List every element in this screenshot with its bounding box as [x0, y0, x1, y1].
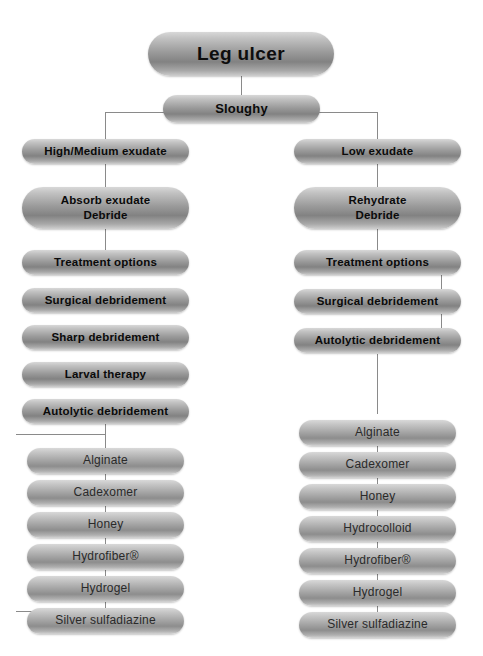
node-low-exudate-label: Low exudate	[342, 145, 414, 158]
node-right-autolytic-debridement-label: Autolytic debridement	[315, 334, 441, 347]
node-leg-ulcer[interactable]: Leg ulcer	[148, 32, 334, 76]
node-right-surgical-debridement[interactable]: Surgical debridement	[294, 289, 461, 314]
connector-sloughy-down-right	[377, 112, 378, 139]
node-left-dressing-alginate-label: Alginate	[83, 454, 128, 468]
node-left-dressing-honey[interactable]: Honey	[27, 512, 184, 538]
node-absorb-exudate-debride[interactable]: Absorb exudate Debride	[22, 187, 189, 229]
node-right-dressing-honey-label: Honey	[360, 490, 396, 504]
node-right-treatment-options-label: Treatment options	[326, 256, 429, 269]
node-left-dressing-honey-label: Honey	[88, 518, 124, 532]
node-left-larval-therapy-label: Larval therapy	[65, 368, 146, 381]
node-right-dressing-honey[interactable]: Honey	[299, 484, 456, 510]
connector-right-exudate-to-aim	[377, 164, 378, 187]
node-right-dressing-alginate-label: Alginate	[355, 426, 400, 440]
node-left-treatment-options-label: Treatment options	[54, 256, 157, 269]
node-right-surgical-debridement-label: Surgical debridement	[317, 295, 439, 308]
node-left-autolytic-debridement[interactable]: Autolytic debridement	[22, 399, 189, 424]
connector-sloughy-spread-right	[311, 112, 377, 113]
node-leg-ulcer-label: Leg ulcer	[197, 43, 285, 65]
node-left-larval-therapy[interactable]: Larval therapy	[22, 362, 189, 387]
node-left-dressing-hydrofiber-label: Hydrofiber®	[72, 550, 138, 564]
connector-sloughy-down-left	[105, 112, 106, 139]
node-right-dressing-cadexomer[interactable]: Cadexomer	[299, 452, 456, 478]
node-left-surgical-debridement[interactable]: Surgical debridement	[22, 288, 189, 313]
node-right-dressing-hydrocolloid[interactable]: Hydrocolloid	[299, 516, 456, 542]
node-left-sharp-debridement-label: Sharp debridement	[51, 331, 159, 344]
node-left-dressing-silver-sulfadiazine[interactable]: Silver sulfadiazine	[27, 608, 184, 634]
node-right-dressing-silver-sulfadiazine[interactable]: Silver sulfadiazine	[299, 612, 456, 638]
node-low-exudate[interactable]: Low exudate	[294, 139, 461, 164]
connector-left-exudate-to-aim	[105, 164, 106, 187]
node-absorb-exudate-line1: Absorb exudate	[61, 194, 151, 207]
node-left-treatment-options[interactable]: Treatment options	[22, 250, 189, 275]
node-left-dressing-hydrogel-label: Hydrogel	[81, 582, 131, 596]
node-left-dressing-alginate[interactable]: Alginate	[27, 448, 184, 474]
node-left-dressing-silver-sulfadiazine-label: Silver sulfadiazine	[55, 614, 156, 628]
node-left-dressing-hydrogel[interactable]: Hydrogel	[27, 576, 184, 602]
node-rehydrate-line1: Rehydrate	[348, 194, 406, 207]
node-left-surgical-debridement-label: Surgical debridement	[45, 294, 167, 307]
node-rehydrate-debride[interactable]: Rehydrate Debride	[294, 187, 461, 229]
node-sloughy[interactable]: Sloughy	[163, 95, 320, 123]
node-rehydrate-line2: Debride	[355, 209, 399, 222]
node-right-dressing-hydrogel-label: Hydrogel	[353, 586, 403, 600]
node-right-autolytic-debridement[interactable]: Autolytic debridement	[294, 328, 461, 353]
node-left-autolytic-debridement-label: Autolytic debridement	[43, 405, 169, 418]
node-right-dressing-cadexomer-label: Cadexomer	[346, 458, 410, 472]
node-right-dressing-hydrofiber[interactable]: Hydrofiber®	[299, 548, 456, 574]
node-right-dressing-hydrogel[interactable]: Hydrogel	[299, 580, 456, 606]
node-absorb-exudate-line2: Debride	[83, 209, 127, 222]
node-right-dressing-silver-sulfadiazine-label: Silver sulfadiazine	[327, 618, 428, 632]
node-right-treatment-options[interactable]: Treatment options	[294, 250, 461, 275]
connector-sloughy-spread-left	[105, 112, 171, 113]
flowchart-canvas: Leg ulcer Sloughy High/Medium exudate Ab…	[0, 0, 483, 656]
node-left-dressing-cadexomer-label: Cadexomer	[74, 486, 138, 500]
connector-right-autolytic-to-list	[377, 354, 378, 414]
connector-right-aim-to-options	[377, 229, 378, 250]
node-sloughy-label: Sloughy	[215, 102, 268, 117]
node-high-medium-exudate-label: High/Medium exudate	[44, 145, 167, 158]
connector-left-aim-to-options	[105, 229, 106, 250]
node-high-medium-exudate[interactable]: High/Medium exudate	[22, 139, 189, 164]
node-left-sharp-debridement[interactable]: Sharp debridement	[22, 325, 189, 350]
node-right-dressing-hydrocolloid-label: Hydrocolloid	[343, 522, 411, 536]
node-right-dressing-alginate[interactable]: Alginate	[299, 420, 456, 446]
node-left-dressing-cadexomer[interactable]: Cadexomer	[27, 480, 184, 506]
node-right-dressing-hydrofiber-label: Hydrofiber®	[344, 554, 410, 568]
node-left-dressing-hydrofiber[interactable]: Hydrofiber®	[27, 544, 184, 570]
